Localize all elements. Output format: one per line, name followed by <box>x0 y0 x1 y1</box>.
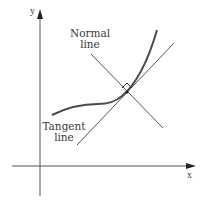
tangent-normal-diagram: y x Normal line Tangent line <box>0 0 203 205</box>
y-axis <box>37 9 43 196</box>
y-axis-label: y <box>30 6 35 16</box>
tangency-point <box>126 91 129 94</box>
x-axis-label: x <box>187 170 192 180</box>
tangent-line-label-line2: line <box>42 132 86 143</box>
y-axis-arrow-icon <box>37 9 43 19</box>
tangent-line-label: Tangent line <box>42 121 86 143</box>
normal-line-label-line2: line <box>70 39 110 50</box>
normal-line-label: Normal line <box>70 28 110 50</box>
